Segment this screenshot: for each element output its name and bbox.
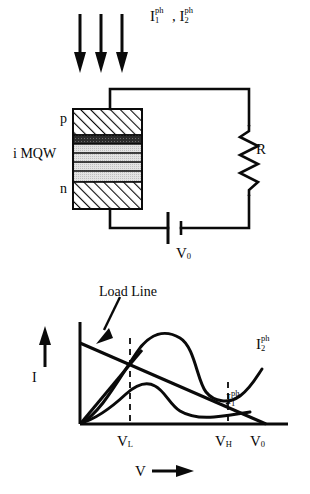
voltage-axis-arrow (152, 465, 194, 477)
device-label-i-mqw: i MQW (13, 147, 56, 161)
mqw-device (73, 109, 142, 209)
illumination-arrows (74, 14, 128, 73)
curve-label-i2-ph: I ph 2 (256, 336, 261, 352)
illumination-arrow-2 (95, 14, 107, 73)
voltage-source (168, 212, 181, 244)
figure-graphics (0, 0, 310, 494)
voltage-source-label: V 0 (176, 245, 187, 261)
x-tick-label-vl: V L (117, 433, 128, 449)
x-tick-label-v0: V 0 (250, 433, 261, 449)
resistor-label: R (256, 142, 266, 157)
device-layer-mqw (73, 144, 142, 182)
wire-bottom (110, 209, 168, 228)
graph-x-axis-label: V (135, 464, 146, 479)
device-label-n: n (60, 182, 67, 196)
device-layer-dark-band (73, 135, 142, 144)
graph-y-axis-label: I (32, 371, 37, 385)
photocurrent-label: I ph 1 , I ph 2 (150, 8, 185, 24)
load-line-pointer-arrow (96, 297, 120, 344)
photocurrent-symbol-1: I ph 1 (150, 8, 155, 24)
device-layer-p (73, 109, 142, 135)
figure-root: I ph 1 , I ph 2 p i MQW n R V 0 Load Lin… (0, 0, 310, 494)
x-tick-label-vh: V H (215, 433, 226, 449)
resistor (240, 125, 258, 196)
device-label-p: p (60, 112, 67, 126)
illumination-arrow-3 (116, 14, 128, 73)
load-line (80, 343, 266, 424)
illumination-arrow-1 (74, 14, 86, 73)
current-axis-arrow (39, 326, 51, 367)
device-layer-n (73, 182, 142, 209)
curve-i1-ph (81, 384, 250, 423)
photocurrent-symbol-2: I ph 2 (180, 8, 185, 24)
wire-bottom-right (181, 196, 249, 228)
curve-label-i1-ph: I ph 1 (226, 391, 231, 407)
load-line-annotation: Load Line (99, 285, 157, 299)
photocurrent-separator: , (172, 8, 180, 24)
